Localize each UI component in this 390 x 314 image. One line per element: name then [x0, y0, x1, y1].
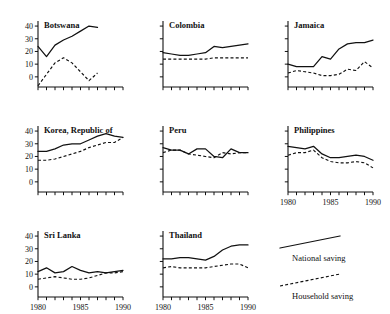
x-tick-label: 1985	[323, 198, 339, 207]
legend-swatch-dashed	[280, 274, 340, 286]
x-tick-label: 1985	[198, 303, 214, 312]
panel-korea-republic-of: Korea, Republic of010203040	[25, 125, 123, 195]
y-tick-label: 10	[25, 270, 33, 279]
panel-title: Thailand	[169, 230, 202, 240]
panel-jamaica: Jamaica	[285, 20, 373, 90]
legend-swatch-solid	[280, 236, 340, 248]
y-tick-label: 40	[25, 127, 33, 136]
panel-title: Sri Lanka	[44, 230, 81, 240]
series-solid	[38, 26, 98, 56]
panel-title: Botswana	[44, 20, 80, 30]
x-tick-label: 1985	[73, 303, 89, 312]
y-tick-label: 20	[25, 152, 33, 161]
panel-peru: Peru	[160, 125, 248, 195]
y-tick-label: 30	[25, 140, 33, 149]
series-solid	[163, 44, 248, 55]
y-tick-label: 0	[29, 178, 33, 187]
panel-title: Korea, Republic of	[44, 125, 113, 135]
y-tick-label: 20	[25, 47, 33, 56]
x-tick-label: 1990	[365, 198, 381, 207]
legend-label: Household saving	[292, 291, 354, 301]
series-dashed	[288, 62, 373, 76]
y-tick-label: 0	[29, 283, 33, 292]
panel-title: Peru	[169, 125, 187, 135]
y-tick-label: 40	[25, 22, 33, 31]
panel-botswana: Botswana010203040	[25, 20, 123, 90]
series-solid	[38, 267, 123, 273]
series-solid	[163, 245, 248, 260]
series-dashed	[163, 58, 248, 59]
y-tick-label: 40	[25, 232, 33, 241]
series-dashed	[288, 150, 373, 168]
legend: National savingHousehold saving	[280, 236, 354, 301]
panel-grid: Botswana010203040ColombiaJamaicaKorea, R…	[25, 20, 381, 312]
series-dashed	[38, 58, 98, 86]
x-tick-label: 1990	[240, 303, 256, 312]
series-dashed	[38, 272, 123, 280]
panel-thailand: Thailand198019851990	[155, 230, 256, 312]
panel-sri-lanka: Sri Lanka010203040198019851990	[25, 230, 131, 312]
y-tick-label: 0	[29, 73, 33, 82]
y-tick-label: 10	[25, 165, 33, 174]
panel-philippines: Philippines198019851990	[280, 125, 381, 207]
y-tick-label: 30	[25, 35, 33, 44]
series-solid	[288, 40, 373, 67]
y-tick-label: 10	[25, 60, 33, 69]
y-tick-label: 30	[25, 245, 33, 254]
x-tick-label: 1980	[280, 198, 296, 207]
panel-title: Jamaica	[294, 20, 325, 30]
y-tick-label: 20	[25, 257, 33, 266]
panel-title: Colombia	[169, 20, 205, 30]
series-dashed	[38, 137, 123, 160]
small-multiples-figure: Botswana010203040ColombiaJamaicaKorea, R…	[0, 0, 390, 314]
x-tick-label: 1980	[155, 303, 171, 312]
series-solid	[288, 146, 373, 160]
x-tick-label: 1980	[30, 303, 46, 312]
x-tick-label: 1990	[115, 303, 131, 312]
legend-label: National saving	[292, 253, 346, 263]
panel-title: Philippines	[294, 125, 335, 135]
series-dashed	[163, 264, 248, 268]
panel-colombia: Colombia	[160, 20, 248, 90]
